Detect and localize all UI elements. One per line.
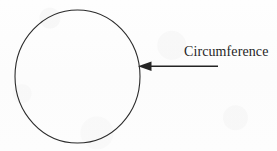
- circle-outline: [15, 10, 140, 143]
- geometry-diagram-canvas: Circumference: [0, 0, 277, 151]
- circumference-pointer: [138, 61, 218, 71]
- diagram-vector-layer: [0, 0, 277, 151]
- circumference-label: Circumference: [184, 44, 268, 60]
